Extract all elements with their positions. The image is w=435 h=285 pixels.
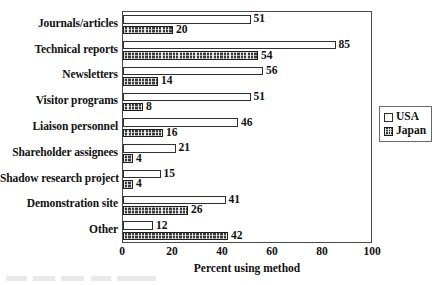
bar-japan (123, 129, 163, 138)
bar-value-label: 12 (153, 220, 168, 232)
x-axis-ticks: 020406080100 (122, 246, 372, 262)
bar-value-label: 16 (163, 127, 178, 139)
category-label: Liaison personnel (0, 121, 118, 133)
chart-legend: USA Japan (379, 106, 432, 142)
bar-value-label: 14 (158, 76, 173, 88)
bar-value-label: 54 (258, 50, 273, 62)
plot-area: 512085545614518461621415441261242 USA Ja… (122, 11, 372, 243)
bar-japan (123, 232, 228, 241)
bar-usa (123, 41, 336, 50)
x-tick-label: 100 (363, 246, 380, 258)
bar-row: 4126 (123, 192, 371, 218)
x-tick-label: 40 (216, 246, 228, 258)
bar-value-label: 20 (173, 24, 188, 36)
x-axis-title: Percent using method (122, 263, 372, 275)
category-label: Visitor programs (0, 95, 118, 107)
bar-value-label: 51 (251, 14, 266, 26)
bar-value-label: 4 (133, 153, 142, 165)
bar-row: 518 (123, 89, 371, 115)
bar-row: 4616 (123, 115, 371, 141)
bar-row: 214 (123, 141, 371, 167)
bar-value-label: 41 (226, 194, 241, 206)
legend-label-usa: USA (396, 111, 419, 123)
bar-row: 5120 (123, 12, 371, 38)
category-label: Shareholder assignees (0, 147, 118, 159)
bar-value-label: 85 (336, 39, 351, 51)
legend-item-usa: USA (384, 110, 426, 124)
category-label: Technical reports (0, 44, 118, 56)
x-tick-label: 60 (266, 246, 278, 258)
bar-value-label: 4 (133, 179, 142, 191)
bar-japan (123, 206, 188, 215)
bar-japan (123, 51, 258, 60)
category-label: Shadow research project (0, 173, 118, 185)
bar-row: 154 (123, 167, 371, 193)
legend-label-japan: Japan (396, 125, 426, 137)
bar-japan (123, 26, 173, 35)
bar-japan (123, 77, 158, 86)
bar-value-label: 51 (251, 91, 266, 103)
usa-swatch-icon (384, 113, 393, 122)
bar-chart: Journals/articlesTechnical reportsNewsle… (0, 0, 435, 285)
bar-usa (123, 196, 226, 205)
bar-row: 5614 (123, 64, 371, 90)
bar-value-label: 56 (263, 65, 278, 77)
bar-row: 8554 (123, 38, 371, 64)
x-tick-label: 20 (166, 246, 178, 258)
bar-japan (123, 180, 133, 189)
category-label: Newsletters (0, 70, 118, 82)
category-label: Journals/articles (0, 18, 118, 30)
bar-usa (123, 93, 251, 102)
bar-usa (123, 67, 263, 76)
legend-item-japan: Japan (384, 124, 426, 138)
bar-usa (123, 144, 176, 153)
bar-japan (123, 154, 133, 163)
bar-japan (123, 103, 143, 112)
bar-value-label: 42 (228, 230, 243, 242)
bar-value-label: 15 (161, 168, 176, 180)
category-label: Other (0, 224, 118, 236)
cropped-caption-remnant (6, 276, 156, 281)
bar-usa (123, 221, 153, 230)
bar-value-label: 26 (188, 204, 203, 216)
bar-row: 1242 (123, 218, 371, 244)
japan-swatch-icon (384, 127, 393, 136)
x-tick-label: 80 (316, 246, 328, 258)
bar-value-label: 46 (238, 117, 253, 129)
bar-value-label: 8 (143, 101, 152, 113)
x-tick-label: 0 (119, 246, 125, 258)
bar-usa (123, 118, 238, 127)
bar-value-label: 21 (176, 143, 191, 155)
category-label: Demonstration site (0, 199, 118, 211)
